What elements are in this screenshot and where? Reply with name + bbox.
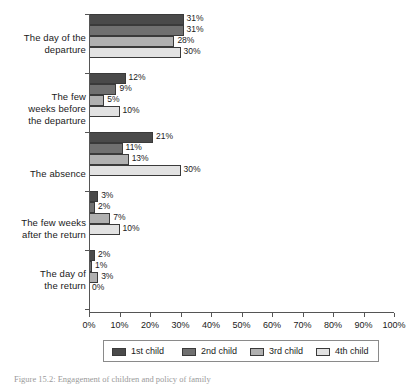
bar-value-label: 30% <box>184 46 201 57</box>
x-axis-tick <box>150 313 151 317</box>
figure-caption: Figure 15.2: Engagement of children and … <box>14 374 414 385</box>
bar-row: 3% <box>89 191 394 202</box>
bar[interactable] <box>89 106 120 117</box>
x-axis-tick <box>181 313 182 317</box>
y-axis-tick <box>85 309 90 310</box>
bar-value-label: 2% <box>98 249 110 260</box>
bar-row: 31% <box>89 25 394 36</box>
category-label-line: The day of the <box>0 32 86 44</box>
chart-legend: 1st child2nd child3rd child4th child <box>103 340 379 362</box>
x-axis-tick <box>394 313 395 317</box>
x-axis-tick <box>242 313 243 317</box>
bar-group: 2%1%3%0% <box>89 250 394 294</box>
bar-group: 3%2%7%10% <box>89 191 394 235</box>
bar-row: 2% <box>89 202 394 213</box>
bar-group: 12%9%5%10% <box>89 73 394 117</box>
bar-row: 10% <box>89 224 394 235</box>
x-axis-tick <box>333 313 334 317</box>
y-axis-tick <box>85 14 90 15</box>
x-axis-tick-label: 100% <box>374 319 414 331</box>
bar-group: 31%31%28%30% <box>89 14 394 58</box>
bar-group: 21%11%13%30% <box>89 132 394 176</box>
bar-row: 13% <box>89 154 394 165</box>
legend-label: 1st child <box>131 346 164 357</box>
bar-value-label: 3% <box>101 190 113 201</box>
y-axis-tick <box>85 191 90 192</box>
bar[interactable] <box>89 154 129 165</box>
bar-row: 3% <box>89 272 394 283</box>
bar-value-label: 2% <box>98 201 110 212</box>
category-label: The day ofthe return <box>0 268 86 292</box>
bar-value-label: 7% <box>113 212 125 223</box>
category-label-line: The few weeks <box>0 217 86 229</box>
legend-swatch-icon <box>182 348 196 356</box>
bar-value-label: 3% <box>101 271 113 282</box>
x-axis-tick <box>89 313 90 317</box>
bar-row: 0% <box>89 283 394 294</box>
bar[interactable] <box>89 36 174 47</box>
bar-value-label: 12% <box>129 72 146 83</box>
bar-row: 12% <box>89 73 394 84</box>
bar[interactable] <box>89 165 181 176</box>
category-axis-labels: The day of thedepartureThe fewweeks befo… <box>0 0 86 318</box>
x-axis-tick <box>272 313 273 317</box>
y-axis-tick <box>85 73 90 74</box>
category-label: The day of thedeparture <box>0 32 86 56</box>
bar-row: 2% <box>89 250 394 261</box>
bar-row: 9% <box>89 84 394 95</box>
bar[interactable] <box>89 14 184 25</box>
bar-value-label: 9% <box>119 83 131 94</box>
bar[interactable] <box>89 224 120 235</box>
bar[interactable] <box>89 191 98 202</box>
category-label: The few weeksafter the return <box>0 217 86 241</box>
legend-swatch-icon <box>112 348 126 356</box>
category-label-line: The few <box>0 91 86 103</box>
legend-label: 3rd child <box>269 346 303 357</box>
bar-value-label: 5% <box>107 94 119 105</box>
figure: The day of thedepartureThe fewweeks befo… <box>0 0 420 385</box>
bar-row: 28% <box>89 36 394 47</box>
y-axis-tick <box>85 132 90 133</box>
bar-value-label: 21% <box>156 131 173 142</box>
category-label: The fewweeks beforethe departure <box>0 91 86 127</box>
y-axis-tick <box>85 250 90 251</box>
bar-row: 30% <box>89 47 394 58</box>
bar-value-label: 10% <box>123 223 140 234</box>
bar-value-label: 31% <box>187 13 204 24</box>
bar-row: 1% <box>89 261 394 272</box>
bars-region: 31%31%28%30%12%9%5%10%21%11%13%30%3%2%7%… <box>89 14 394 308</box>
x-axis-tick <box>303 313 304 317</box>
category-label-line: departure <box>0 44 86 56</box>
legend-entry[interactable]: 2nd child <box>182 345 237 358</box>
legend-entry[interactable]: 1st child <box>112 345 164 358</box>
category-label-line: the return <box>0 280 86 292</box>
bar-row: 31% <box>89 14 394 25</box>
bar-value-label: 13% <box>132 153 149 164</box>
bar-value-label: 1% <box>95 260 107 271</box>
legend-entry[interactable]: 3rd child <box>250 345 303 358</box>
category-label-line: The absence <box>0 168 86 180</box>
bar-value-label: 28% <box>177 35 194 46</box>
bar[interactable] <box>89 213 110 224</box>
category-label-line: after the return <box>0 229 86 241</box>
legend-entry[interactable]: 4th child <box>316 345 369 358</box>
x-axis-tick <box>211 313 212 317</box>
bar[interactable] <box>89 143 123 154</box>
x-axis-tick <box>364 313 365 317</box>
category-label-line: weeks before <box>0 103 86 115</box>
bar[interactable] <box>89 95 104 106</box>
legend-swatch-icon <box>316 348 330 356</box>
category-label-line: the departure <box>0 115 86 127</box>
bar[interactable] <box>89 47 181 58</box>
legend-swatch-icon <box>250 348 264 356</box>
chart-plot-area: The day of thedepartureThe fewweeks befo… <box>0 0 420 318</box>
bar-value-label: 10% <box>123 105 140 116</box>
category-label: The absence <box>0 168 86 180</box>
bar[interactable] <box>89 25 184 36</box>
category-label-line: The day of <box>0 268 86 280</box>
bar-value-label: 30% <box>184 164 201 175</box>
bar-value-label: 11% <box>126 142 142 153</box>
y-axis-line <box>89 14 90 313</box>
bar[interactable] <box>89 132 153 143</box>
x-axis-tick <box>120 313 121 317</box>
